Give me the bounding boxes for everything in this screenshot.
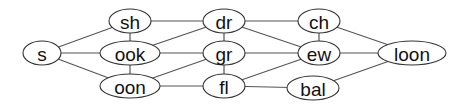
node-label: bal xyxy=(300,79,325,100)
node-s: s xyxy=(23,41,61,65)
node-label: fl xyxy=(219,77,229,98)
nodes-layer: sshookoondrgrflchewballoon xyxy=(23,9,446,100)
node-loon: loon xyxy=(378,41,446,65)
node-label: dr xyxy=(216,12,234,33)
node-bal: bal xyxy=(287,76,339,100)
node-ook: ook xyxy=(100,41,160,65)
node-label: sh xyxy=(120,12,140,33)
node-dr: dr xyxy=(203,9,245,33)
node-oon: oon xyxy=(100,74,160,98)
word-graph-diagram: sshookoondrgrflchewballoon xyxy=(0,0,469,106)
node-label: loon xyxy=(394,44,430,65)
node-label: ew xyxy=(307,44,332,65)
node-fl: fl xyxy=(203,74,245,98)
node-label: oon xyxy=(114,77,146,98)
node-gr: gr xyxy=(203,41,245,65)
node-sh: sh xyxy=(109,9,151,33)
node-label: gr xyxy=(216,44,234,65)
node-label: s xyxy=(37,44,47,65)
node-label: ch xyxy=(309,12,329,33)
node-ew: ew xyxy=(298,41,340,65)
node-ch: ch xyxy=(298,9,340,33)
node-label: ook xyxy=(115,44,146,65)
